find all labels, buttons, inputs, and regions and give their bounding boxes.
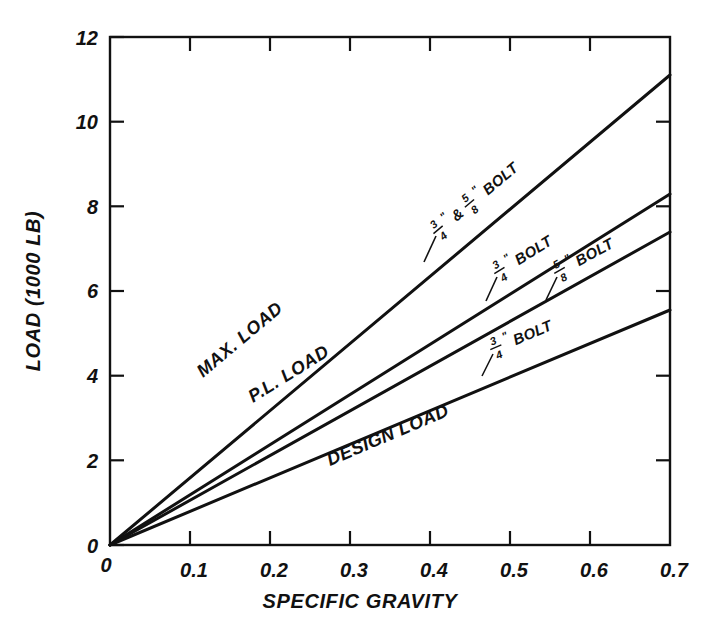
annot4-denominator-4: 4 <box>493 348 504 362</box>
series-label-design-load: DESIGN LOAD <box>324 400 452 469</box>
figure-container: 0 2 4 6 8 10 12 0 0.1 0.2 0.3 0.4 0.5 0.… <box>0 0 715 623</box>
y-tick-label-4: 4 <box>86 365 98 387</box>
y-tick-label-0: 0 <box>87 535 98 557</box>
y-tick-label-8: 8 <box>87 196 99 218</box>
annot2-numerator-3: 3 <box>490 258 502 271</box>
y-axis-ticks <box>110 37 124 545</box>
annot4-inch-mark: " <box>500 329 510 342</box>
annot1-denominator-4: 4 <box>436 229 449 243</box>
x-tick-label-0_1: 0.1 <box>180 559 208 581</box>
line-max-load <box>110 75 670 545</box>
x-tick-label-0_7: 0.7 <box>660 559 689 581</box>
annot3-denominator-8: 8 <box>558 270 570 284</box>
x-axis-title: SPECIFIC GRAVITY <box>263 590 459 612</box>
y-tick-label-2: 2 <box>86 450 98 472</box>
y-tick-label-12: 12 <box>76 27 98 49</box>
x-tick-label-0_4: 0.4 <box>420 559 448 581</box>
y-tick-labels: 0 2 4 6 8 10 12 <box>76 27 99 557</box>
x-tick-label-0: 0 <box>100 554 111 576</box>
x-tick-label-0_2: 0.2 <box>260 559 288 581</box>
x-tick-label-0_3: 0.3 <box>340 559 368 581</box>
line-pl-load-five-eighth <box>110 232 670 545</box>
annot4-bolt-text: BOLT <box>510 316 556 348</box>
annot1-ampersand: & <box>447 204 466 224</box>
annot1-denominator-8: 8 <box>468 202 481 216</box>
annot3-inch-mark: " <box>562 251 573 264</box>
x-axis-ticks-top <box>190 37 590 51</box>
plot-frame <box>110 37 670 545</box>
annot4-numerator-3: 3 <box>488 334 498 347</box>
x-tick-label-0_6: 0.6 <box>580 559 609 581</box>
x-axis-ticks <box>190 531 590 545</box>
y-axis-title: LOAD (1000 LB) <box>22 211 44 372</box>
y-axis-ticks-right <box>656 122 670 461</box>
annot2-bolt-text: BOLT <box>511 231 556 268</box>
x-tick-labels: 0 0.1 0.2 0.3 0.4 0.5 0.6 0.7 <box>100 554 688 581</box>
x-tick-label-0_5: 0.5 <box>500 559 529 581</box>
annot-design-load-bolt: 3 4 " BOLT <box>482 311 558 376</box>
y-tick-label-6: 6 <box>87 280 99 302</box>
load-vs-specific-gravity-chart: 0 2 4 6 8 10 12 0 0.1 0.2 0.3 0.4 0.5 0.… <box>0 0 715 623</box>
annot2-denominator-4: 4 <box>497 271 509 285</box>
annot1-bolt-text: BOLT <box>479 158 522 198</box>
y-tick-label-10: 10 <box>76 111 98 133</box>
annot-pl-load-bolt: 3 4 " BOLT <box>486 227 559 301</box>
series-label-max-load: MAX. LOAD <box>193 298 287 381</box>
data-lines <box>110 75 670 545</box>
